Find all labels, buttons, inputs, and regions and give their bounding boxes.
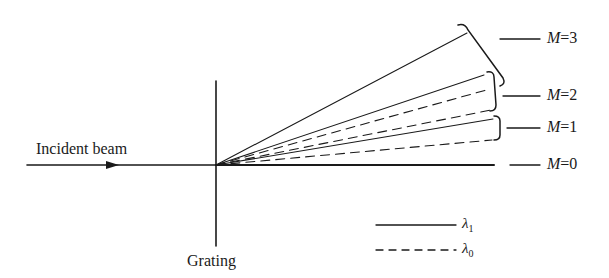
incident-beam-arrowhead (106, 161, 119, 169)
order-label-m1: M=1 (547, 118, 577, 136)
order-value: =3 (560, 29, 577, 46)
bracket-m1 (494, 116, 500, 140)
diffraction-grating-diagram (0, 0, 609, 278)
legend-subscript: 1 (469, 223, 474, 234)
legend-lambda1: λ1 (462, 215, 474, 234)
order-symbol: M (547, 118, 560, 135)
order-label-m0: M=0 (547, 155, 577, 173)
incident-beam-label: Incident beam (36, 140, 127, 158)
order-symbol: M (547, 29, 560, 46)
ray-m1-lambda1 (216, 119, 493, 165)
ray-m2-lambda0 (216, 89, 490, 165)
order-value: =2 (560, 86, 577, 103)
order-value: =1 (560, 118, 577, 135)
order-label-m2: M=2 (547, 86, 577, 104)
order-symbol: M (547, 86, 560, 103)
legend-lambda0: λ0 (462, 240, 474, 259)
bracket-m2 (487, 72, 496, 111)
order-symbol: M (547, 155, 560, 172)
order-label-m3: M=3 (547, 29, 577, 47)
legend-subscript: 0 (469, 248, 474, 259)
order-value: =0 (560, 155, 577, 172)
grating-label: Grating (187, 252, 236, 270)
